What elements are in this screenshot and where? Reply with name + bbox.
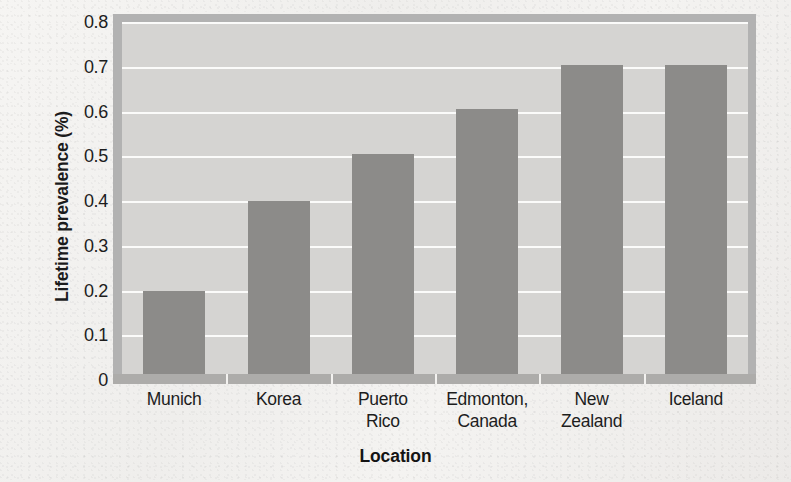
plot-area bbox=[122, 22, 748, 380]
y-axis-tick-0: 0 bbox=[98, 370, 108, 391]
y-axis-tick-labels: 0.80.70.60.50.40.30.20.10 bbox=[52, 14, 108, 378]
gridline bbox=[122, 67, 748, 69]
chart-page: Lifetime prevalence (%) 0.80.70.60.50.40… bbox=[0, 0, 791, 482]
x-axis-tick-line: Zealand bbox=[561, 410, 622, 432]
x-axis-tick-line: Edmonton, bbox=[446, 388, 528, 410]
plot-frame bbox=[113, 14, 756, 380]
x-axis-tickmark bbox=[226, 374, 228, 384]
y-axis-tick-0.6: 0.6 bbox=[84, 101, 108, 122]
gridline bbox=[122, 246, 748, 248]
bar-iceland bbox=[665, 65, 727, 380]
y-axis-tick-0.1: 0.1 bbox=[84, 325, 108, 346]
x-axis-tick-iceland: Iceland bbox=[669, 388, 723, 410]
bar-munich bbox=[143, 291, 205, 381]
x-axis-tick-korea: Korea bbox=[256, 388, 301, 410]
x-axis-tick-line: Puerto bbox=[358, 388, 408, 410]
x-axis-tick-new-zealand: NewZealand bbox=[561, 388, 622, 432]
x-axis-tickmark bbox=[435, 374, 437, 384]
bar-korea bbox=[248, 201, 310, 380]
gridline bbox=[122, 22, 748, 24]
x-axis-tickmark bbox=[539, 374, 541, 384]
x-axis-tick-line: New bbox=[561, 388, 622, 410]
gridline bbox=[122, 335, 748, 337]
y-axis-tick-0.5: 0.5 bbox=[84, 146, 108, 167]
y-axis-tick-0.8: 0.8 bbox=[84, 12, 108, 33]
gridline bbox=[122, 291, 748, 293]
x-axis-line bbox=[113, 374, 756, 384]
y-axis-tick-0.7: 0.7 bbox=[84, 56, 108, 77]
bar-new-zealand bbox=[561, 65, 623, 380]
y-axis-tick-0.4: 0.4 bbox=[84, 191, 108, 212]
x-axis-tick-munich: Munich bbox=[147, 388, 202, 410]
x-axis-tick-line: Korea bbox=[256, 388, 301, 410]
gridline bbox=[122, 201, 748, 203]
x-axis-tick-line: Canada bbox=[446, 410, 528, 432]
y-axis-tick-0.2: 0.2 bbox=[84, 280, 108, 301]
bar-puerto-rico bbox=[352, 154, 414, 380]
x-axis-tick-line: Munich bbox=[147, 388, 202, 410]
x-axis-tick-puerto-rico: PuertoRico bbox=[358, 388, 408, 432]
x-axis-tick-edmonton-canada: Edmonton,Canada bbox=[446, 388, 528, 432]
x-axis-tickmark bbox=[644, 374, 646, 384]
x-axis-tickmark bbox=[331, 374, 333, 384]
gridline bbox=[122, 112, 748, 114]
y-axis-tick-0.3: 0.3 bbox=[84, 235, 108, 256]
x-axis-title: Location bbox=[0, 446, 791, 467]
gridline bbox=[122, 156, 748, 158]
x-axis-tick-line: Iceland bbox=[669, 388, 723, 410]
x-axis-tick-line: Rico bbox=[358, 410, 408, 432]
bar-edmonton-canada bbox=[456, 109, 518, 380]
x-axis-tick-labels: MunichKoreaPuertoRicoEdmonton,CanadaNewZ… bbox=[113, 388, 756, 434]
